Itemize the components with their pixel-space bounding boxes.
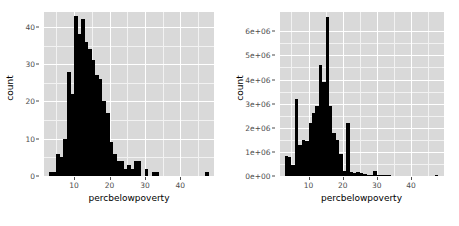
- x-tick-label: 40: [176, 181, 186, 190]
- x-tick-mark: [411, 177, 412, 180]
- plot-area-right: [280, 12, 444, 176]
- grid-major-horizontal: [44, 27, 214, 28]
- y-tick-mark: [272, 103, 275, 104]
- y-tick-mark: [36, 64, 39, 65]
- y-tick-label: 20: [25, 97, 35, 106]
- x-tick-mark: [110, 177, 111, 180]
- y-tick-label: 0: [30, 172, 35, 181]
- y-tick-mark: [272, 79, 275, 80]
- x-axis-title-right: percbelowpoverty: [280, 193, 444, 203]
- chart-panel-left: count 010203040 10203040 percbelowpovert…: [0, 0, 230, 226]
- grid-minor-horizontal: [280, 92, 444, 93]
- y-tick-mark: [36, 26, 39, 27]
- grid-minor-vertical: [127, 12, 128, 176]
- y-tick-mark: [272, 55, 275, 56]
- grid-major-vertical: [180, 12, 181, 176]
- y-tick-mark: [272, 151, 275, 152]
- grid-major-horizontal: [280, 31, 444, 32]
- histogram-bar: [346, 123, 349, 176]
- x-tick-label: 20: [105, 181, 115, 190]
- chart-panel-right: count 0e+001e+062e+063e+064e+065e+066e+0…: [230, 0, 459, 226]
- x-tick-mark: [377, 177, 378, 180]
- grid-major-horizontal: [280, 104, 444, 105]
- y-tick-label: 1e+06: [245, 147, 270, 156]
- grid-minor-vertical: [163, 12, 164, 176]
- y-tick-label: 2e+06: [245, 123, 270, 132]
- histogram-bar: [435, 175, 438, 176]
- grid-minor-vertical: [198, 12, 199, 176]
- grid-major-vertical: [145, 12, 146, 176]
- y-tick-mark: [36, 176, 39, 177]
- grid-major-horizontal: [280, 128, 444, 129]
- y-axis-ticks-left: 010203040: [0, 12, 40, 176]
- y-tick-mark: [272, 176, 275, 177]
- y-tick-mark: [272, 127, 275, 128]
- y-tick-mark: [36, 101, 39, 102]
- x-tick-label: 20: [338, 181, 348, 190]
- plot-area-left: [44, 12, 214, 176]
- y-tick-label: 4e+06: [245, 75, 270, 84]
- histogram-figure: count 010203040 10203040 percbelowpovert…: [0, 0, 459, 226]
- y-axis-ticks-right: 0e+001e+062e+063e+064e+065e+066e+06: [230, 12, 276, 176]
- y-tick-mark: [36, 138, 39, 139]
- y-tick-mark: [272, 31, 275, 32]
- x-tick-mark: [180, 177, 181, 180]
- grid-major-horizontal: [44, 64, 214, 65]
- x-tick-label: 10: [69, 181, 79, 190]
- histogram-bar: [156, 172, 160, 176]
- x-tick-mark: [74, 177, 75, 180]
- histogram-bar: [145, 169, 149, 176]
- x-axis-title-left: percbelowpoverty: [44, 193, 214, 203]
- x-tick-label: 30: [372, 181, 382, 190]
- y-tick-label: 3e+06: [245, 99, 270, 108]
- x-tick-label: 40: [406, 181, 416, 190]
- x-tick-mark: [343, 177, 344, 180]
- y-tick-label: 30: [25, 60, 35, 69]
- y-tick-label: 6e+06: [245, 27, 270, 36]
- y-tick-label: 40: [25, 22, 35, 31]
- histogram-bar: [205, 172, 209, 176]
- grid-minor-horizontal: [44, 46, 214, 47]
- grid-minor-horizontal: [280, 67, 444, 68]
- histogram-bar: [387, 175, 390, 176]
- grid-minor-vertical: [56, 12, 57, 176]
- x-tick-mark: [145, 177, 146, 180]
- x-tick-label: 10: [304, 181, 314, 190]
- grid-minor-horizontal: [280, 116, 444, 117]
- grid-minor-horizontal: [280, 43, 444, 44]
- x-tick-label: 30: [140, 181, 150, 190]
- histogram-bar: [138, 161, 142, 176]
- x-tick-mark: [309, 177, 310, 180]
- y-tick-label: 0e+00: [245, 172, 270, 181]
- y-tick-label: 5e+06: [245, 51, 270, 60]
- grid-major-horizontal: [280, 80, 444, 81]
- y-tick-label: 10: [25, 134, 35, 143]
- grid-major-horizontal: [280, 55, 444, 56]
